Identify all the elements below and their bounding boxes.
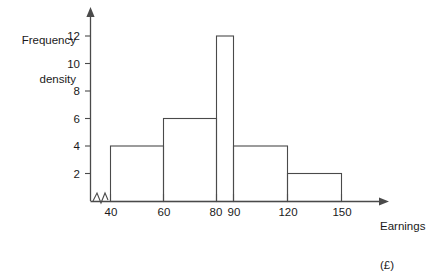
histogram-bar-80-90 bbox=[217, 36, 234, 202]
x-axis-title-line-2: (£) bbox=[380, 259, 438, 272]
y-tick-label-8: 8 bbox=[58, 85, 80, 97]
x-tick-label-120: 120 bbox=[273, 206, 303, 218]
x-axis-title-line-1: Earnings bbox=[380, 220, 438, 233]
x-tick-label-90: 90 bbox=[219, 206, 249, 218]
histogram-bar-90-120 bbox=[234, 146, 288, 202]
histogram-bar-120-150 bbox=[288, 174, 342, 202]
y-tick-label-6: 6 bbox=[58, 113, 80, 125]
y-tick-label-2: 2 bbox=[58, 168, 80, 180]
histogram-bar-40-60 bbox=[111, 146, 164, 202]
y-tick-label-4: 4 bbox=[58, 140, 80, 152]
x-axis-title: Earnings (£) bbox=[380, 194, 438, 275]
histogram-bar-60-80 bbox=[164, 119, 217, 202]
y-axis-arrow-icon bbox=[86, 7, 94, 17]
y-tick-label-12: 12 bbox=[58, 30, 80, 42]
y-tick-label-10: 10 bbox=[58, 58, 80, 70]
x-tick-label-60: 60 bbox=[149, 206, 179, 218]
x-tick-label-150: 150 bbox=[327, 206, 357, 218]
x-tick-label-40: 40 bbox=[96, 206, 126, 218]
